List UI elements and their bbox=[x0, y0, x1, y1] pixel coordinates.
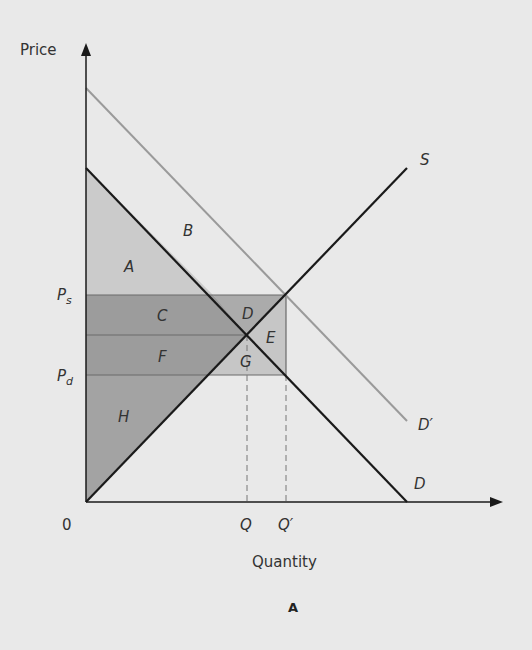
y-axis-arrow-icon bbox=[81, 43, 91, 56]
demand-label: D bbox=[414, 475, 426, 493]
ps-label: Ps bbox=[57, 286, 72, 307]
region-d-label: D bbox=[242, 305, 254, 323]
figure-caption: A bbox=[288, 600, 298, 615]
region-f-label: F bbox=[158, 348, 167, 366]
region-g-label: G bbox=[240, 353, 252, 371]
q-label: Q bbox=[240, 516, 252, 534]
pd-label: Pd bbox=[57, 367, 74, 388]
supply-demand-diagram: Price Quantity 0 A Ps Pd Q Q′ S D D′ A B… bbox=[0, 0, 532, 650]
region-b-label: B bbox=[183, 222, 193, 240]
x-axis-arrow-icon bbox=[490, 497, 503, 507]
region-h-label: H bbox=[118, 408, 129, 426]
region-c-label: C bbox=[157, 307, 168, 325]
demand-shifted-label: D′ bbox=[418, 416, 434, 434]
region-e-label: E bbox=[266, 329, 276, 347]
q-prime-label: Q′ bbox=[278, 516, 294, 534]
supply-label: S bbox=[420, 151, 430, 169]
origin-label: 0 bbox=[62, 516, 72, 534]
region-a-label: A bbox=[123, 258, 134, 276]
y-axis-label: Price bbox=[20, 41, 57, 59]
x-axis-label: Quantity bbox=[252, 553, 317, 571]
